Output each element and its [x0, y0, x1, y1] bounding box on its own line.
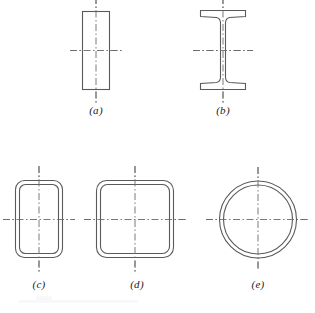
shape-c-rectangular-tube: [0, 160, 90, 275]
caption-b: (b): [203, 104, 243, 116]
rect-tube-outer-wall: [16, 181, 63, 258]
square-tube-drawing: [84, 160, 194, 275]
i-beam-drawing: [160, 0, 315, 100]
circular-tube-drawing: [200, 160, 315, 275]
solid-rectangle-drawing: [0, 0, 160, 100]
caption-d: (d): [117, 278, 157, 290]
scan-artifact-smudge: [36, 296, 52, 300]
caption-a: (a): [76, 104, 116, 116]
shape-b-i-beam: [160, 0, 315, 100]
square-tube-outer-wall: [97, 181, 174, 258]
shape-e-circular-tube: [200, 160, 315, 275]
shape-d-square-tube: [84, 160, 194, 275]
caption-e: (e): [238, 278, 278, 290]
caption-c: (c): [19, 278, 59, 290]
circular-tube-outer-wall: [220, 181, 297, 258]
rectangular-tube-drawing: [0, 160, 90, 275]
scan-artifact-bottom-left: [18, 300, 138, 303]
i-beam-outline: [201, 11, 246, 90]
structural-cross-sections-figure: (a) (b) (c) (d): [0, 0, 315, 313]
shape-a-solid-rectangle: [0, 0, 160, 100]
